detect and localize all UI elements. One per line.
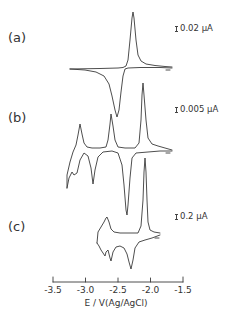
x-tick-label: -3.5 — [44, 285, 62, 295]
x-axis-title: E / V(Ag/AgCl) — [84, 298, 147, 308]
x-axis — [53, 277, 183, 282]
current-scale-b-value: 0.005 µA — [180, 104, 218, 114]
x-tick-label: -2.0 — [142, 285, 160, 295]
scale-bar-icon — [176, 107, 177, 113]
x-tick-label: -3.0 — [77, 285, 95, 295]
current-scale-b: 0.005 µA — [176, 104, 218, 114]
panel-label-c: (c) — [8, 219, 25, 234]
current-scale-c: 0.2 µA — [176, 211, 207, 221]
panel-label-b: (b) — [8, 110, 26, 125]
current-scale-a-value: 0.02 µA — [180, 23, 213, 33]
panel-label-a: (a) — [8, 30, 26, 45]
voltammogram-figure: (a) (b) (c) 0.02 µA 0.005 µA 0.2 µA -3.5… — [0, 0, 234, 324]
current-scale-a: 0.02 µA — [176, 23, 213, 33]
scale-bar-icon — [176, 214, 177, 220]
scale-bar-icon — [176, 26, 177, 32]
curve-a — [70, 12, 172, 117]
voltammogram-plot — [0, 0, 234, 324]
x-tick-label: -1.5 — [174, 285, 192, 295]
current-scale-c-value: 0.2 µA — [180, 211, 207, 221]
x-tick-label: -2.5 — [109, 285, 127, 295]
curve-c — [97, 158, 160, 269]
